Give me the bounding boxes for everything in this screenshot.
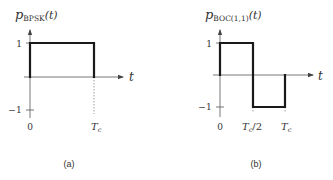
x-label-0: 0 <box>27 122 33 132</box>
caption-a: (a) <box>64 159 75 169</box>
caption-b: (b) <box>251 159 262 169</box>
y-tick-label-neg1: −1 <box>198 102 211 112</box>
pulse-shape-figure: pBPSK(t) 1 −1 t 0 Tc (a) pBOC(1,1)(t) <box>0 0 333 180</box>
t-axis-label: t <box>318 69 323 83</box>
panel-a-title: pBPSK(t) <box>15 7 58 23</box>
bpsk-pulse <box>30 43 94 77</box>
tc-subscript: c <box>98 126 102 134</box>
title-argument: (t) <box>249 9 262 22</box>
title-subscript: BOC(1,1) <box>213 14 248 23</box>
panel-b-boc: pBOC(1,1)(t) 1 −1 t 0 Tc/2 Tc (b) <box>198 7 323 169</box>
x-label-0: 0 <box>217 122 223 132</box>
y-tick-label-1: 1 <box>206 39 212 49</box>
x-label-tc: Tc <box>281 121 292 134</box>
panel-b-title: pBOC(1,1)(t) <box>205 7 262 23</box>
title-subscript: BPSK <box>23 14 45 23</box>
t-axis-label: t <box>129 70 134 84</box>
title-argument: (t) <box>45 9 58 22</box>
panel-a-bpsk: pBPSK(t) 1 −1 t 0 Tc (a) <box>8 7 134 169</box>
tc-half-suffix: /2 <box>252 121 262 132</box>
x-label-tc-half: Tc/2 <box>242 121 262 134</box>
y-tick-label-1: 1 <box>16 39 22 49</box>
x-label-tc: Tc <box>91 121 102 134</box>
tc-subscript: c <box>288 126 292 134</box>
y-tick-label-neg1: −1 <box>8 105 21 115</box>
